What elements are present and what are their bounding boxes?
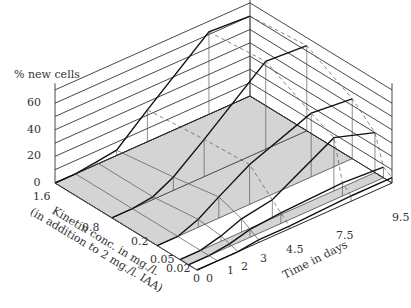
z-tick-label: 0 <box>34 177 41 188</box>
kinetin-tick-label: 0 <box>193 273 200 284</box>
chart-3d-surface <box>0 0 411 308</box>
kinetin-tick-label: 0.2 <box>131 236 149 247</box>
z-tick-label: 20 <box>27 150 41 161</box>
time-tick-label: 0 <box>206 273 213 284</box>
time-tick-label: 2 <box>241 261 248 272</box>
time-tick-label: 3 <box>260 253 267 264</box>
z-tick-label: 40 <box>27 124 41 135</box>
z-axis-title: % new cells <box>14 69 80 80</box>
kinetin-tick-label: 1.6 <box>33 191 51 202</box>
z-tick-label: 60 <box>27 97 41 108</box>
time-tick-label: 1 <box>227 265 234 276</box>
kinetin-tick-label: 0.02 <box>166 263 191 274</box>
time-tick-label: 9.5 <box>392 212 410 223</box>
time-tick-label: 4.5 <box>286 244 304 255</box>
